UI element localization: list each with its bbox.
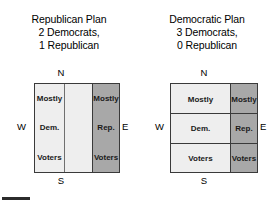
district-row-1-left-label: Mostly <box>171 94 230 103</box>
district-column-2 <box>64 84 92 172</box>
title-line-republican-count: 0 Republican <box>138 39 276 52</box>
democratic-plan-map: Mostly Mostly Dem. Rep. Voters Voters <box>170 83 258 173</box>
district-row-1: Mostly Mostly <box>171 84 257 113</box>
compass-east-label: E <box>122 122 128 132</box>
district-1-label-line-3: Voters <box>37 153 61 162</box>
republican-column-segment-1: Mostly <box>230 84 257 113</box>
title-line-plan-name: Democratic Plan <box>138 13 276 26</box>
district-rows: Mostly Mostly Dem. Rep. Voters Voters <box>171 84 257 172</box>
title-line-democrat-count: 2 Democrats, <box>0 26 138 39</box>
republican-plan-panel: Republican Plan 2 Democrats, 1 Republica… <box>0 0 138 201</box>
republican-column-segment-3: Voters <box>230 144 257 172</box>
district-1-labels: Mostly Dem. Voters <box>35 84 64 172</box>
title-line-democrat-count: 3 Democrats, <box>138 26 276 39</box>
district-row-3: Voters Voters <box>171 143 257 172</box>
district-row-1-right-label: Mostly <box>231 94 257 103</box>
district-row-2: Dem. Rep. <box>171 113 257 142</box>
district-1-label-line-2: Dem. <box>40 123 60 132</box>
democratic-plan-panel: Democratic Plan 3 Democrats, 0 Republica… <box>138 0 276 201</box>
title-line-republican-count: 1 Republican <box>0 39 138 52</box>
compass-north-label: N <box>0 68 138 78</box>
district-row-3-left-label: Voters <box>171 153 230 162</box>
republican-column-segment-2: Rep. <box>230 114 257 142</box>
district-column-1: Mostly Dem. Voters <box>35 84 64 172</box>
compass-south-label: S <box>0 176 138 186</box>
title-line-plan-name: Republican Plan <box>0 13 138 26</box>
compass-west-label: W <box>17 122 26 132</box>
compass-north-label: N <box>138 68 276 78</box>
republican-plan-map: Mostly Dem. Voters Mostly Rep. Voters <box>34 83 120 173</box>
democratic-plan-title: Democratic Plan 3 Democrats, 0 Republica… <box>138 13 276 53</box>
district-3-label-line-2: Rep. <box>97 123 114 132</box>
district-row-2-left-label: Dem. <box>171 124 230 133</box>
district-column-3: Mostly Rep. Voters <box>92 84 119 172</box>
compass-east-label: E <box>260 122 266 132</box>
bottom-left-marker-bar <box>2 197 30 200</box>
district-3-labels: Mostly Rep. Voters <box>93 84 119 172</box>
compass-west-label: W <box>155 122 164 132</box>
district-row-3-right-label: Voters <box>231 153 257 162</box>
district-columns: Mostly Dem. Voters Mostly Rep. Voters <box>35 84 119 172</box>
republican-plan-title: Republican Plan 2 Democrats, 1 Republica… <box>0 13 138 53</box>
compass-south-label: S <box>138 176 276 186</box>
district-3-label-line-3: Voters <box>94 153 118 162</box>
district-row-2-right-label: Rep. <box>231 124 257 133</box>
district-3-label-line-1: Mostly <box>93 94 118 103</box>
district-1-label-line-1: Mostly <box>37 94 62 103</box>
